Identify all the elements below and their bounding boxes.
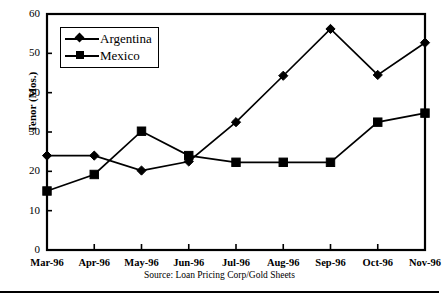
chart-legend: Argentina Mexico bbox=[60, 27, 159, 68]
legend-item-mexico: Mexico bbox=[65, 47, 152, 64]
source-note: Source: Loan Pricing Corp/Gold Sheets bbox=[0, 270, 439, 281]
legend-item-argentina: Argentina bbox=[65, 30, 152, 47]
y-tick-label: 60 bbox=[14, 8, 40, 19]
x-tick-label: Nov-96 bbox=[396, 257, 446, 268]
bottom-divider bbox=[0, 291, 439, 293]
data-point-mexico-Jun-96 bbox=[185, 151, 193, 159]
data-point-mexico-Sep-96 bbox=[326, 158, 334, 166]
data-point-argentina-May-96 bbox=[137, 166, 146, 175]
data-point-mexico-Mar-96 bbox=[43, 187, 51, 195]
y-tick-label: 20 bbox=[14, 165, 40, 176]
data-point-mexico-Nov-96 bbox=[421, 109, 429, 117]
y-tick-label: 0 bbox=[14, 244, 40, 255]
legend-label-mexico: Mexico bbox=[99, 49, 140, 63]
data-point-mexico-Aug-96 bbox=[279, 158, 287, 166]
data-point-mexico-May-96 bbox=[137, 127, 145, 135]
data-point-mexico-Apr-96 bbox=[90, 170, 98, 178]
y-tick-label: 10 bbox=[14, 205, 40, 216]
legend-label-argentina: Argentina bbox=[99, 32, 152, 46]
y-tick-label: 50 bbox=[14, 47, 40, 58]
data-point-mexico-Oct-96 bbox=[374, 118, 382, 126]
square-marker-icon bbox=[65, 49, 99, 63]
diamond-marker-icon bbox=[65, 32, 99, 46]
data-point-argentina-Apr-96 bbox=[90, 151, 99, 160]
data-point-argentina-Mar-96 bbox=[42, 151, 51, 160]
data-point-mexico-Jul-96 bbox=[232, 158, 240, 166]
y-axis-title: Tenor (Mos.) bbox=[26, 42, 38, 162]
y-tick-label: 30 bbox=[14, 126, 40, 137]
y-tick-label: 40 bbox=[14, 87, 40, 98]
